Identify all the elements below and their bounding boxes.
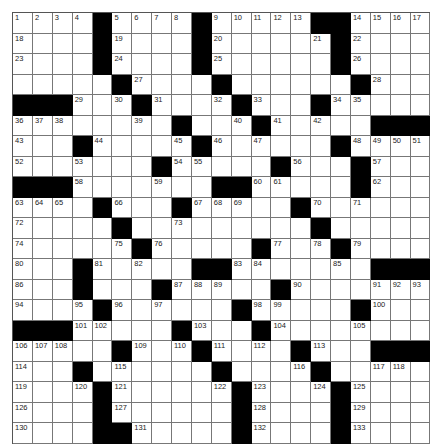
grid-cell[interactable] [212,403,232,424]
grid-cell[interactable] [172,239,192,260]
grid-cell[interactable] [351,362,371,383]
grid-cell[interactable]: 71 [351,198,371,219]
grid-cell[interactable] [331,218,351,239]
grid-cell[interactable]: 112 [252,341,272,362]
grid-cell[interactable]: 63 [13,198,33,219]
grid-cell[interactable] [331,300,351,321]
grid-cell[interactable] [311,136,331,157]
grid-cell[interactable] [132,382,152,403]
grid-cell[interactable]: 91 [371,280,391,301]
grid-cell[interactable] [271,259,291,280]
grid-cell[interactable] [311,300,331,321]
grid-cell[interactable]: 14 [351,13,371,34]
grid-cell[interactable]: 55 [192,157,212,178]
grid-cell[interactable] [232,341,252,362]
grid-cell[interactable]: 20 [212,34,232,55]
grid-cell[interactable]: 36 [13,116,33,137]
grid-cell[interactable]: 129 [351,403,371,424]
grid-cell[interactable]: 119 [13,382,33,403]
grid-cell[interactable]: 2 [33,13,53,34]
grid-cell[interactable]: 120 [73,382,93,403]
grid-cell[interactable] [53,403,73,424]
grid-cell[interactable] [33,300,53,321]
grid-cell[interactable] [291,300,311,321]
grid-cell[interactable] [232,218,252,239]
grid-cell[interactable] [132,177,152,198]
grid-cell[interactable] [132,157,152,178]
grid-cell[interactable] [271,75,291,96]
grid-cell[interactable] [33,136,53,157]
grid-cell[interactable]: 79 [351,239,371,260]
grid-cell[interactable]: 50 [391,136,411,157]
grid-cell[interactable] [152,259,172,280]
grid-cell[interactable] [252,54,272,75]
grid-cell[interactable] [93,177,113,198]
grid-cell[interactable] [132,280,152,301]
grid-cell[interactable] [291,259,311,280]
grid-cell[interactable] [391,75,411,96]
grid-cell[interactable] [132,54,152,75]
grid-cell[interactable]: 25 [212,54,232,75]
grid-cell[interactable] [351,280,371,301]
grid-cell[interactable] [73,198,93,219]
grid-cell[interactable]: 34 [331,95,351,116]
grid-cell[interactable]: 3 [53,13,73,34]
grid-cell[interactable]: 77 [271,239,291,260]
grid-cell[interactable]: 102 [93,321,113,342]
grid-cell[interactable] [371,382,391,403]
grid-cell[interactable]: 11 [252,13,272,34]
grid-cell[interactable]: 86 [13,280,33,301]
grid-cell[interactable]: 18 [13,34,33,55]
grid-cell[interactable] [291,95,311,116]
grid-cell[interactable]: 35 [351,95,371,116]
grid-cell[interactable]: 92 [391,280,411,301]
grid-cell[interactable] [331,280,351,301]
grid-cell[interactable] [411,75,431,96]
grid-cell[interactable] [271,198,291,219]
grid-cell[interactable] [271,34,291,55]
grid-cell[interactable]: 73 [172,218,192,239]
grid-cell[interactable]: 21 [311,34,331,55]
grid-cell[interactable] [371,95,391,116]
grid-cell[interactable] [391,423,411,444]
grid-cell[interactable] [152,423,172,444]
grid-cell[interactable] [172,362,192,383]
grid-cell[interactable]: 4 [73,13,93,34]
grid-cell[interactable] [112,116,132,137]
grid-cell[interactable] [351,116,371,137]
grid-cell[interactable]: 9 [212,13,232,34]
grid-cell[interactable] [132,300,152,321]
grid-cell[interactable] [33,239,53,260]
grid-cell[interactable] [172,34,192,55]
grid-cell[interactable]: 104 [271,321,291,342]
grid-cell[interactable]: 59 [152,177,172,198]
grid-cell[interactable] [271,362,291,383]
grid-cell[interactable] [73,218,93,239]
grid-cell[interactable]: 23 [13,54,33,75]
grid-cell[interactable]: 5 [112,13,132,34]
grid-cell[interactable]: 108 [53,341,73,362]
grid-cell[interactable] [33,34,53,55]
grid-cell[interactable]: 53 [73,157,93,178]
grid-cell[interactable]: 113 [311,341,331,362]
grid-cell[interactable]: 95 [73,300,93,321]
grid-cell[interactable] [212,218,232,239]
grid-cell[interactable] [331,116,351,137]
grid-cell[interactable]: 22 [351,34,371,55]
grid-cell[interactable] [331,157,351,178]
grid-cell[interactable]: 105 [351,321,371,342]
grid-cell[interactable] [192,177,212,198]
grid-cell[interactable] [132,403,152,424]
grid-cell[interactable] [192,300,212,321]
grid-cell[interactable] [291,177,311,198]
grid-cell[interactable]: 65 [53,198,73,219]
grid-cell[interactable] [291,239,311,260]
grid-cell[interactable]: 30 [112,95,132,116]
grid-cell[interactable] [411,300,431,321]
grid-cell[interactable] [232,34,252,55]
grid-cell[interactable] [252,157,272,178]
grid-cell[interactable] [33,362,53,383]
grid-cell[interactable]: 84 [252,259,272,280]
grid-cell[interactable] [252,75,272,96]
grid-cell[interactable]: 121 [112,382,132,403]
